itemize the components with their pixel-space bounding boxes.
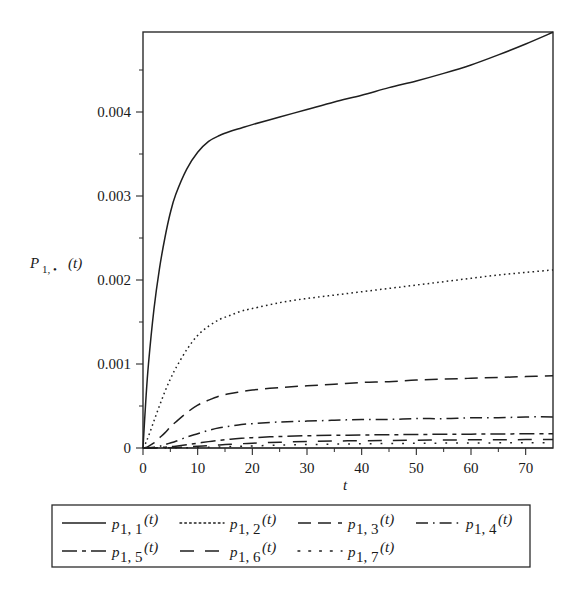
axis-layer: 01020304050607000.0010.0020.0030.004	[97, 70, 553, 476]
legend-label-base: p	[347, 516, 356, 532]
y-axis-label: P 1, • (t)	[29, 255, 82, 275]
legend-label-arg: (t)	[262, 539, 276, 556]
chart-figure: 01020304050607000.0010.0020.0030.004 P 1…	[0, 0, 583, 591]
x-tick-label: 0	[139, 460, 147, 476]
legend-label-sub: 1, 1	[120, 521, 143, 537]
y-axis-label-sub: 1, •	[42, 263, 57, 275]
x-axis-label: t	[343, 477, 348, 493]
legend-label-base: p	[111, 544, 120, 560]
legend-label-arg: (t)	[498, 511, 512, 528]
legend-label-base: p	[229, 516, 238, 532]
y-axis-label-base: P	[29, 255, 39, 271]
y-tick-label: 0.003	[97, 188, 131, 204]
legend-label-sub: 1, 3	[356, 521, 379, 537]
y-tick-label: 0.001	[97, 356, 131, 372]
legend-label-arg: (t)	[144, 511, 158, 528]
series-line	[143, 32, 553, 448]
legend-label-sub: 1, 6	[238, 549, 261, 565]
chart-svg: 01020304050607000.0010.0020.0030.004 P 1…	[0, 0, 583, 591]
series-line	[143, 270, 553, 448]
y-tick-label: 0.004	[97, 104, 131, 120]
x-tick-label: 60	[464, 460, 479, 476]
x-tick-label: 40	[354, 460, 369, 476]
y-tick-label: 0	[124, 440, 132, 456]
x-tick-label: 70	[518, 460, 533, 476]
legend-label-base: p	[465, 516, 474, 532]
legend-layer: p1, 1(t)p1, 2(t)p1, 3(t)p1, 4(t)p1, 5(t)…	[62, 511, 512, 565]
series-line	[143, 376, 553, 448]
curve-layer	[143, 32, 553, 448]
legend-label-arg: (t)	[380, 539, 394, 556]
legend-label-sub: 1, 4	[474, 521, 497, 537]
x-tick-label: 20	[245, 460, 260, 476]
y-tick-label: 0.002	[97, 272, 131, 288]
legend-label-arg: (t)	[144, 539, 158, 556]
legend-label-arg: (t)	[380, 511, 394, 528]
legend-label-base: p	[111, 516, 120, 532]
plot-frame	[143, 32, 553, 448]
legend-label-sub: 1, 7	[356, 549, 379, 565]
series-line	[143, 417, 553, 448]
legend-label-base: p	[229, 544, 238, 560]
legend-label-sub: 1, 5	[120, 549, 143, 565]
series-line	[143, 440, 553, 448]
legend-label-sub: 1, 2	[238, 521, 261, 537]
y-axis-label-arg: (t)	[68, 255, 82, 272]
x-tick-label: 50	[409, 460, 424, 476]
x-tick-label: 30	[300, 460, 315, 476]
x-tick-label: 10	[190, 460, 205, 476]
legend-label-base: p	[347, 544, 356, 560]
legend-label-arg: (t)	[262, 511, 276, 528]
